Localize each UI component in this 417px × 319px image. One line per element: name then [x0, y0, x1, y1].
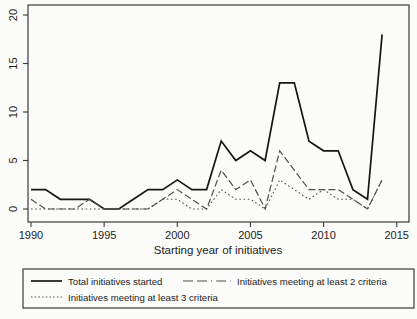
series-line-2 [31, 180, 382, 209]
line-chart: 199019952000200520102015 05101520 Starti… [0, 0, 417, 319]
legend-label-total: Total initiatives started [68, 276, 162, 287]
x-tick-label: 1990 [19, 229, 43, 241]
legend-label-2criteria: Initiatives meeting at least 2 criteria [237, 276, 388, 287]
x-tick-label: 2015 [385, 229, 409, 241]
y-tick-label: 20 [7, 9, 19, 21]
y-tick-label: 5 [7, 157, 19, 163]
x-axis-title: Starting year of initiatives [154, 244, 283, 256]
legend-label-3criteria: Initiatives meeting at least 3 criteria [68, 292, 219, 303]
y-tick-label: 15 [7, 57, 19, 69]
plot-area-box [28, 5, 409, 222]
y-tick-label: 10 [7, 106, 19, 118]
x-axis-ticks: 199019952000200520102015 [19, 222, 409, 241]
x-tick-label: 2005 [238, 229, 262, 241]
x-tick-label: 2000 [165, 229, 189, 241]
x-tick-label: 1995 [92, 229, 116, 241]
legend: Total initiatives started Initiatives me… [31, 276, 388, 303]
figure: 199019952000200520102015 05101520 Starti… [0, 0, 417, 319]
y-axis-ticks: 05101520 [7, 9, 29, 212]
series-line-0 [31, 34, 382, 209]
x-tick-label: 2010 [311, 229, 335, 241]
series-line-1 [31, 151, 382, 209]
series-lines [31, 34, 382, 209]
y-tick-label: 0 [7, 206, 19, 212]
